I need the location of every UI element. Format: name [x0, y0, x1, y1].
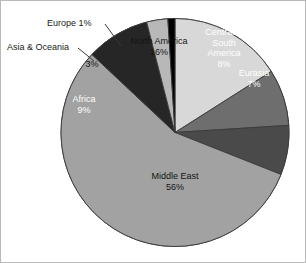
pie-chart-figure: North America 16% Central & South Americ… [0, 0, 306, 263]
slice-label-eurasia: Eurasia 7% [227, 68, 281, 89]
slice-label-north-america: North America 16% [119, 36, 199, 57]
slice-label-africa-value: 9% [57, 105, 111, 116]
slice-label-eurasia-value: 7% [227, 79, 281, 90]
callout-label-asia-oceania-name: Asia & Oceania [7, 42, 69, 52]
slice-label-asia-oceania-value: 3% [79, 59, 105, 70]
slice-label-africa: Africa 9% [57, 94, 111, 115]
slice-label-eurasia-name: Eurasia [227, 68, 281, 79]
slice-label-middle-east-name: Middle East [133, 171, 217, 182]
slice-label-africa-name: Africa [57, 94, 111, 105]
slice-label-asia-oceania-value-wrap: 3% [79, 59, 105, 70]
slice-label-central-south-america: Central & South America 8% [197, 27, 251, 69]
callout-label-europe-text: Europe 1% [47, 18, 92, 28]
slice-label-north-america-value: 16% [119, 47, 199, 58]
slice-label-middle-east: Middle East 56% [133, 171, 217, 192]
slice-label-middle-east-value: 56% [133, 182, 217, 193]
slice-label-central-south-america-line1: Central & [197, 27, 251, 38]
callout-label-europe: Europe 1% [47, 18, 92, 29]
slice-label-central-south-america-line3: America [197, 48, 251, 59]
slice-label-north-america-name: North America [119, 36, 199, 47]
callout-label-asia-oceania: Asia & Oceania [7, 42, 69, 53]
slice-label-central-south-america-line2: South [197, 38, 251, 49]
